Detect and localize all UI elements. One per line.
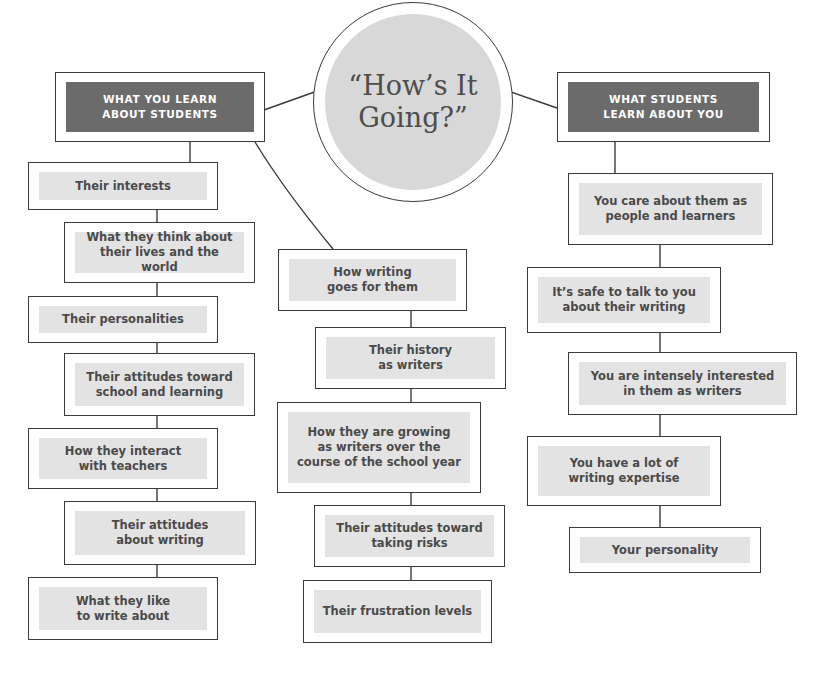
left-item-label: Their attitudes toward school and learni… bbox=[75, 363, 244, 406]
right-item-label: Your personality bbox=[580, 537, 750, 563]
middle-item-label: How writing goes for them bbox=[289, 259, 456, 301]
right-item-your-personality: Your personality bbox=[569, 527, 761, 573]
left-header-box: WHAT YOU LEARN ABOUT STUDENTS bbox=[55, 72, 265, 142]
middle-item-label: Their attitudes toward taking risks bbox=[325, 515, 494, 557]
left-item-label: Their personalities bbox=[39, 306, 207, 333]
right-header-box: WHAT STUDENTS LEARN ABOUT YOU bbox=[557, 72, 770, 142]
left-header-label: WHAT YOU LEARN ABOUT STUDENTS bbox=[66, 82, 254, 132]
right-item-care-about-them: You care about them as people and learne… bbox=[568, 173, 773, 245]
right-item-intensely-interested: You are intensely interested in them as … bbox=[568, 352, 797, 415]
right-item-safe-to-talk: It’s safe to talk to you about their wri… bbox=[527, 267, 721, 333]
right-item-label: You are intensely interested in them as … bbox=[579, 362, 786, 405]
middle-item-label: Their frustration levels bbox=[314, 590, 481, 633]
left-item-interact-teachers: How they interact with teachers bbox=[28, 428, 218, 489]
right-item-writing-expertise: You have a lot of writing expertise bbox=[527, 436, 721, 506]
left-item-label: How they interact with teachers bbox=[39, 438, 207, 479]
right-item-label: You care about them as people and learne… bbox=[579, 183, 762, 235]
middle-item-how-writing-goes: How writing goes for them bbox=[278, 249, 467, 311]
left-item-label: What they think about their lives and th… bbox=[75, 232, 244, 273]
left-item-label: Their attitudes about writing bbox=[75, 511, 245, 555]
right-item-label: It’s safe to talk to you about their wri… bbox=[538, 277, 710, 323]
middle-item-growing-as-writers: How they are growing as writers over the… bbox=[277, 402, 481, 493]
right-header-label: WHAT STUDENTS LEARN ABOUT YOU bbox=[568, 82, 759, 132]
left-item-label: What they like to write about bbox=[39, 587, 207, 630]
central-topic-title: “How’s It Going?” bbox=[325, 14, 501, 190]
left-item-lives-and-world: What they think about their lives and th… bbox=[64, 222, 255, 283]
middle-item-history-as-writers: Their history as writers bbox=[315, 327, 506, 389]
left-item-interests: Their interests bbox=[28, 162, 218, 210]
middle-item-taking-risks: Their attitudes toward taking risks bbox=[314, 505, 505, 567]
right-item-label: You have a lot of writing expertise bbox=[538, 446, 710, 496]
middle-item-label: How they are growing as writers over the… bbox=[288, 412, 470, 483]
middle-item-label: Their history as writers bbox=[326, 337, 495, 379]
left-item-attitudes-school: Their attitudes toward school and learni… bbox=[64, 353, 255, 416]
left-item-personalities: Their personalities bbox=[28, 296, 218, 343]
middle-item-frustration-levels: Their frustration levels bbox=[303, 580, 492, 643]
left-item-write-about: What they like to write about bbox=[28, 577, 218, 640]
left-item-label: Their interests bbox=[39, 172, 207, 200]
central-topic-circle: “How’s It Going?” bbox=[313, 2, 513, 202]
left-item-attitudes-writing: Their attitudes about writing bbox=[64, 501, 256, 565]
